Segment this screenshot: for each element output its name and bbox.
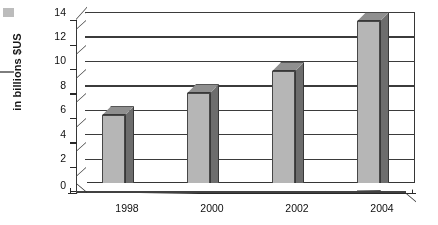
bar-front-face xyxy=(357,21,380,191)
y-tick-label-8: 8 xyxy=(44,80,66,90)
y-axis-tick-10 xyxy=(70,69,77,70)
y-tick-label-0: 0 xyxy=(44,180,66,190)
x-tick-label-1998: 1998 xyxy=(101,202,153,214)
y-tick-label-12: 12 xyxy=(44,31,66,41)
bar-front-face xyxy=(187,93,210,191)
bar-2002 xyxy=(272,71,295,191)
plot-left-wall xyxy=(76,12,87,192)
y-tick-label-6: 6 xyxy=(44,104,66,114)
bar-side-face xyxy=(380,12,389,191)
bar-side-face xyxy=(125,106,134,191)
y-tick-label-14: 14 xyxy=(44,7,66,17)
y-axis-tick-6 xyxy=(70,118,77,119)
y-axis-tick-2 xyxy=(70,167,77,168)
bar-chart: in billions $US 14 12 10 8 6 4 2 0 1998 … xyxy=(0,0,438,225)
bar-side-face xyxy=(210,84,219,191)
bar-side-face xyxy=(295,62,304,191)
y-axis-tick-14 xyxy=(70,20,77,21)
x-tick-label-2000: 2000 xyxy=(186,202,238,214)
y-axis-tick-12 xyxy=(70,45,77,46)
plot-area xyxy=(76,12,415,191)
y-axis-tick-4 xyxy=(70,142,77,143)
x-axis-baseline xyxy=(76,191,406,193)
bar-front-face xyxy=(102,115,125,191)
scan-artifact-square xyxy=(3,8,14,17)
y-tick-label-2: 2 xyxy=(44,153,66,163)
x-tick-label-2004: 2004 xyxy=(356,202,408,214)
bar-front-face xyxy=(272,71,295,191)
y-axis-title: in billions $US xyxy=(11,24,27,120)
y-tick-label-4: 4 xyxy=(44,129,66,139)
bar-1998 xyxy=(102,115,125,191)
bar-2004 xyxy=(357,21,380,191)
y-tick-label-10: 10 xyxy=(44,55,66,65)
bar-2000 xyxy=(187,93,210,191)
x-tick-label-2002: 2002 xyxy=(271,202,323,214)
y-axis-tick-8 xyxy=(70,93,77,94)
